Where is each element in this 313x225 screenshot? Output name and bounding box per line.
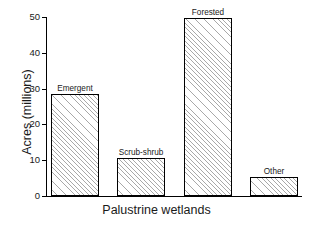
- bar-chart-figure: Acres (millions) Palustrine wetlands 0 1…: [0, 0, 313, 225]
- plot-area: 0 10 20 30 40 50 Emergent Scrub-shrub Fo…: [46, 17, 302, 196]
- bar-forested: [184, 18, 232, 196]
- y-tick-mark: [42, 124, 46, 125]
- x-axis-title: Palustrine wetlands: [0, 203, 313, 217]
- y-tick-label: 30: [10, 84, 40, 94]
- y-tick-mark: [42, 89, 46, 90]
- y-tick-mark: [42, 160, 46, 161]
- x-axis-line: [46, 196, 302, 197]
- y-tick-label: 50: [10, 12, 40, 22]
- y-tick-mark: [42, 17, 46, 18]
- bar-label-scrub-shrub: Scrub-shrub: [112, 149, 170, 157]
- bar-label-other: Other: [250, 168, 298, 176]
- y-tick-label: 40: [10, 48, 40, 58]
- y-tick-label: 0: [10, 191, 40, 201]
- y-tick-mark: [42, 196, 46, 197]
- y-tick-label: 20: [10, 119, 40, 129]
- y-axis-line: [46, 17, 47, 197]
- bar-other: [250, 177, 298, 196]
- y-tick-mark: [42, 53, 46, 54]
- bar-emergent: [51, 94, 99, 196]
- bar-scrub-shrub: [117, 158, 165, 196]
- y-tick-label: 10: [10, 155, 40, 165]
- bar-label-forested: Forested: [182, 9, 234, 17]
- bar-label-emergent: Emergent: [51, 85, 99, 93]
